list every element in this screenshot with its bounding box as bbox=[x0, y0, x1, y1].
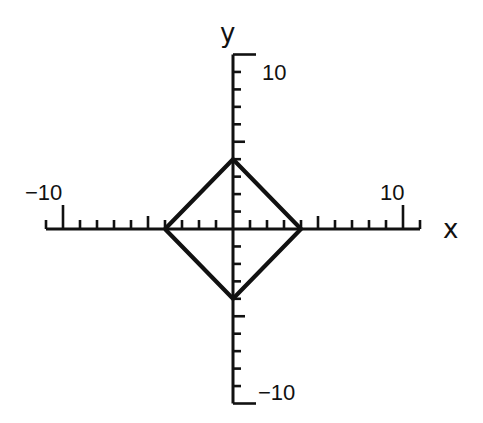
graph-figure: x y −10 10 10 −10 bbox=[0, 0, 483, 423]
y-min-tick-label: −10 bbox=[258, 380, 295, 405]
y-axis-label: y bbox=[220, 18, 235, 48]
x-max-tick-label: 10 bbox=[380, 180, 404, 205]
x-min-tick-label: −10 bbox=[25, 180, 62, 205]
x-axis-label: x bbox=[443, 214, 458, 244]
y-max-tick-label: 10 bbox=[262, 60, 286, 85]
